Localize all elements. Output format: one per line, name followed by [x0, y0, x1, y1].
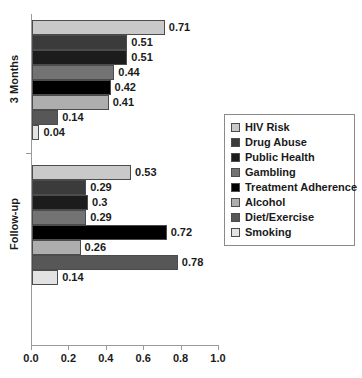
legend-swatch-icon [231, 198, 240, 207]
bar-value-label: 0.71 [165, 20, 190, 35]
bar [32, 125, 39, 140]
bar [32, 80, 111, 95]
x-tick-2 [106, 345, 107, 350]
legend-item: Diet/Exercise [231, 210, 350, 224]
bar-value-label: 0.04 [39, 125, 64, 140]
legend-label: Drug Abuse [245, 136, 307, 148]
x-tick-label-5: 1.0 [200, 352, 236, 364]
group-separator-tick-0 [26, 153, 31, 154]
legend-label: HIV Risk [245, 121, 290, 133]
bar [32, 110, 58, 125]
bar [32, 35, 127, 50]
x-tick-label-0: 0.0 [13, 352, 49, 364]
bar-value-label: 0.53 [131, 165, 156, 180]
bar-chart: 0.00.20.40.60.81.0 3 Months Follow-up 0.… [0, 0, 362, 378]
bar [32, 225, 167, 240]
x-tick-0 [31, 345, 32, 350]
bar [32, 180, 86, 195]
legend-swatch-icon [231, 213, 240, 222]
bar-value-label: 0.14 [58, 270, 83, 285]
bar [32, 50, 127, 65]
legend-item: Public Health [231, 150, 350, 164]
bar [32, 20, 165, 35]
bar [32, 165, 131, 180]
legend-swatch-icon [231, 123, 240, 132]
bar [32, 240, 81, 255]
legend-label: Smoking [245, 226, 291, 238]
bar-value-label: 0.42 [111, 80, 136, 95]
legend-swatch-icon [231, 138, 240, 147]
x-tick-5 [218, 345, 219, 350]
legend-swatch-icon [231, 228, 240, 237]
x-axis-line [31, 345, 219, 346]
legend-label: Public Health [245, 151, 315, 163]
legend-swatch-icon [231, 183, 240, 192]
legend-item: HIV Risk [231, 120, 350, 134]
bar-value-label: 0.29 [86, 180, 111, 195]
legend-swatch-icon [231, 153, 240, 162]
bar-value-label: 0.29 [86, 210, 111, 225]
bar-value-label: 0.3 [88, 195, 107, 210]
x-tick-1 [68, 345, 69, 350]
bar-value-label: 0.72 [167, 225, 192, 240]
legend-item: Gambling [231, 165, 350, 179]
bar-value-label: 0.44 [114, 65, 139, 80]
x-tick-label-2: 0.4 [88, 352, 124, 364]
bar-value-label: 0.14 [58, 110, 83, 125]
bar [32, 95, 109, 110]
bar-value-label: 0.78 [178, 255, 203, 270]
x-tick-label-4: 0.8 [163, 352, 199, 364]
legend-item: Smoking [231, 225, 350, 239]
legend: HIV RiskDrug AbusePublic HealthGamblingT… [224, 114, 355, 246]
legend-label: Diet/Exercise [245, 211, 314, 223]
bar-value-label: 0.41 [109, 95, 134, 110]
legend-swatch-icon [231, 168, 240, 177]
legend-label: Gambling [245, 166, 296, 178]
legend-label: Alcohol [245, 196, 285, 208]
x-tick-4 [181, 345, 182, 350]
legend-label: Treatment Adherence [245, 181, 357, 193]
bar-value-label: 0.51 [127, 50, 152, 65]
x-tick-3 [143, 345, 144, 350]
x-tick-label-3: 0.6 [125, 352, 161, 364]
bar-value-label: 0.26 [81, 240, 106, 255]
group-label-3-months: 3 Months [8, 19, 20, 139]
legend-item: Alcohol [231, 195, 350, 209]
group-label-follow-up: Follow-up [8, 164, 20, 284]
bar [32, 195, 88, 210]
x-tick-label-1: 0.2 [50, 352, 86, 364]
legend-item: Treatment Adherence [231, 180, 350, 194]
bar [32, 255, 178, 270]
bar [32, 210, 86, 225]
legend-item: Drug Abuse [231, 135, 350, 149]
bar-value-label: 0.51 [127, 35, 152, 50]
bar [32, 270, 58, 285]
bar [32, 65, 114, 80]
